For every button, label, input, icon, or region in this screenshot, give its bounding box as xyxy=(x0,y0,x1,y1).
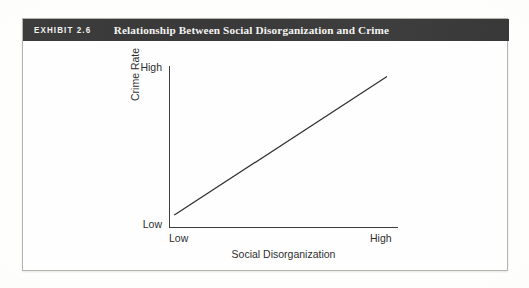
chart-plot-area: High Low Low High Crime Rate Social Diso… xyxy=(23,41,509,272)
y-axis-tick-high: High xyxy=(140,61,162,73)
x-axis-tick-low: Low xyxy=(169,232,188,244)
exhibit-number-label: EXHIBIT 2.6 xyxy=(34,25,91,35)
x-axis-title: Social Disorganization xyxy=(169,248,398,260)
x-axis-tick-high: High xyxy=(370,232,392,244)
y-axis-tick-low: Low xyxy=(143,218,162,230)
y-axis-title: Crime Rate xyxy=(129,48,141,101)
trend-line-segment xyxy=(174,76,387,215)
exhibit-title: Relationship Between Social Disorganizat… xyxy=(114,24,390,36)
exhibit-figure-frame: EXHIBIT 2.6 Relationship Between Social … xyxy=(22,18,508,271)
exhibit-header-bar: EXHIBIT 2.6 Relationship Between Social … xyxy=(23,19,509,41)
page-background: EXHIBIT 2.6 Relationship Between Social … xyxy=(0,0,529,288)
trend-line-graphic xyxy=(163,61,423,236)
